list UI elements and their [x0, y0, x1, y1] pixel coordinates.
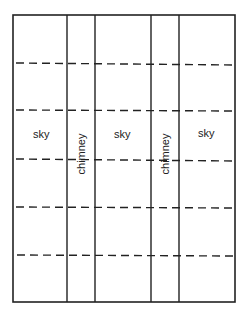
sky-label-3: sky	[198, 127, 215, 139]
dashed-row-3	[16, 159, 234, 161]
chimney-sky-diagram	[0, 0, 243, 312]
sky-label-1: sky	[33, 128, 50, 140]
sky-label-2: sky	[114, 128, 131, 140]
dashed-row-1	[16, 63, 234, 65]
outer-frame	[13, 15, 235, 302]
chimney-label-2: chimney	[159, 129, 171, 179]
dashed-row-5	[17, 255, 234, 256]
chimney-label-1: chimney	[75, 129, 87, 179]
dashed-row-2	[16, 110, 234, 111]
dashed-row-4	[16, 207, 234, 208]
